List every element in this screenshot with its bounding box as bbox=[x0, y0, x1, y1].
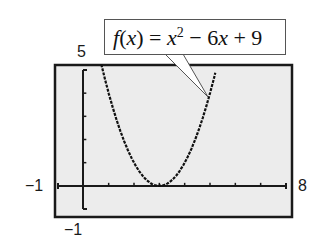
eq-equals: ) = bbox=[136, 25, 167, 50]
function-equation: f(x) = x2 − 6x + 9 bbox=[113, 25, 262, 51]
screen-frame bbox=[55, 65, 292, 217]
eq-x3: x bbox=[218, 25, 228, 50]
xmax-label: 8 bbox=[298, 178, 307, 194]
ymin-label: −1 bbox=[64, 222, 82, 238]
eq-exponent: 2 bbox=[177, 25, 184, 40]
xmin-label: −1 bbox=[25, 178, 43, 194]
eq-x1: x bbox=[126, 25, 136, 50]
eq-x2: x bbox=[167, 25, 177, 50]
eq-plus-9: + 9 bbox=[228, 25, 262, 50]
eq-minus-6: − 6 bbox=[184, 25, 218, 50]
function-callout: f(x) = x2 − 6x + 9 bbox=[104, 19, 286, 55]
ymax-label: 5 bbox=[77, 44, 86, 60]
